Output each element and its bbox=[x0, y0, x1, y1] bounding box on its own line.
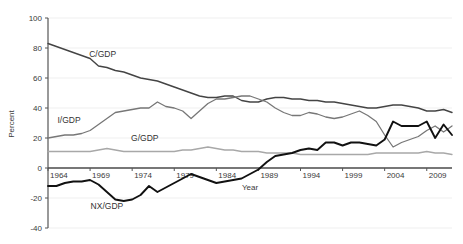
y-tick-label: -20 bbox=[30, 194, 42, 203]
x-tick-label: 1999 bbox=[345, 171, 363, 180]
x-tick-label: 1984 bbox=[218, 171, 236, 180]
x-tick-label: 1989 bbox=[260, 171, 278, 180]
x-tick-label: 1974 bbox=[134, 171, 152, 180]
x-tick-label: 1979 bbox=[176, 171, 194, 180]
y-tick-label: 40 bbox=[33, 104, 42, 113]
y-tick-label: -40 bbox=[30, 224, 42, 233]
x-tick-labels: 1964196919741979198419891994199920042009 bbox=[48, 168, 447, 180]
line-chart: 100806040200-20-40 196419691974197919841… bbox=[0, 0, 463, 244]
x-tick-label: 2009 bbox=[429, 171, 447, 180]
series-line-i-gdp bbox=[48, 96, 452, 147]
x-tick-label: 1969 bbox=[92, 171, 110, 180]
series-labels: C/GDPI/GDPG/GDPNX/GDP bbox=[57, 49, 158, 211]
x-tick-label: 2004 bbox=[387, 171, 405, 180]
series-label-i-gdp: I/GDP bbox=[57, 115, 80, 125]
chart-container: 100806040200-20-40 196419691974197919841… bbox=[0, 0, 463, 244]
series-label-c-gdp: C/GDP bbox=[89, 49, 116, 59]
y-axis-title: Percent bbox=[7, 109, 16, 137]
y-tick-label: 100 bbox=[29, 14, 43, 23]
series-line-g-gdp bbox=[48, 147, 452, 155]
y-tick-label: 60 bbox=[33, 74, 42, 83]
series-label-nx-gdp: NX/GDP bbox=[91, 201, 124, 211]
x-axis-title: Year bbox=[242, 183, 259, 192]
y-tick-label: 80 bbox=[33, 44, 42, 53]
y-tick-label: 0 bbox=[38, 164, 43, 173]
x-tick-label: 1994 bbox=[303, 171, 321, 180]
y-tick-labels: 100806040200-20-40 bbox=[29, 14, 43, 233]
y-tick-label: 20 bbox=[33, 134, 42, 143]
x-tick-label: 1964 bbox=[50, 171, 68, 180]
series-label-g-gdp: G/GDP bbox=[131, 133, 159, 143]
